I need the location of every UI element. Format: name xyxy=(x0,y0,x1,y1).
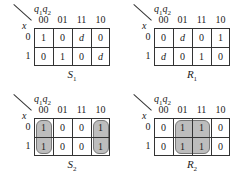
kmap-cell: 0 xyxy=(53,137,72,156)
kmap-caption: S2 xyxy=(62,158,82,173)
kmap-cell: 1 xyxy=(53,47,72,66)
kmap-cell: 0 xyxy=(211,47,230,66)
kmap-cell: d xyxy=(154,47,173,66)
row-variable-label: x xyxy=(142,110,146,121)
column-header: 00 xyxy=(34,14,53,25)
row-header: 1 xyxy=(24,50,32,61)
row-header: 0 xyxy=(24,31,32,42)
row-header: 0 xyxy=(144,121,152,132)
kmap-cell: 0 xyxy=(154,137,173,156)
row-variable-label: x xyxy=(142,20,146,31)
corner-diagonal-line xyxy=(13,94,32,111)
column-header: 11 xyxy=(192,14,211,25)
row-variable-label: x xyxy=(22,20,26,31)
column-header: 00 xyxy=(154,14,173,25)
corner-diagonal-line xyxy=(133,4,152,21)
kmap-cell: d xyxy=(91,47,110,66)
kmap-cell: 0 xyxy=(192,28,211,47)
row-header: 1 xyxy=(24,140,32,151)
kmap-cell: 1 xyxy=(34,137,53,156)
kmap-cell: 1 xyxy=(173,118,192,137)
row-variable-label: x xyxy=(22,110,26,121)
row-header: 1 xyxy=(144,50,152,61)
kmap-caption: R2 xyxy=(182,158,202,173)
kmap-grid: 0d01d010 xyxy=(154,28,230,66)
column-header: 10 xyxy=(91,104,110,115)
kmap-caption: S1 xyxy=(62,68,82,83)
kmap-cell: 0 xyxy=(211,118,230,137)
kmap-cell: 0 xyxy=(154,28,173,47)
column-header: 00 xyxy=(154,104,173,115)
kmap-s2: q1q2x000111100110011001S2 xyxy=(0,90,120,180)
kmap-cell: 1 xyxy=(34,118,53,137)
kmap-cell: 1 xyxy=(91,118,110,137)
kmap-cell: d xyxy=(173,28,192,47)
kmap-cell: 0 xyxy=(53,28,72,47)
corner-diagonal-line xyxy=(133,94,152,111)
column-header: 10 xyxy=(211,14,230,25)
kmap-cell: 0 xyxy=(72,137,91,156)
kmap-cell: 0 xyxy=(173,47,192,66)
column-header: 00 xyxy=(34,104,53,115)
row-header: 0 xyxy=(144,31,152,42)
kmap-cell: 0 xyxy=(34,47,53,66)
kmap-grid: 10011001 xyxy=(34,118,110,156)
kmap-cell: 0 xyxy=(53,118,72,137)
kmap-cell: 0 xyxy=(72,47,91,66)
kmap-cell: 1 xyxy=(192,137,211,156)
kmap-caption: R1 xyxy=(182,68,202,83)
column-header: 01 xyxy=(173,14,192,25)
kmap-cell: 1 xyxy=(91,137,110,156)
kmap-cell: 0 xyxy=(211,137,230,156)
kmap-cell: 0 xyxy=(154,118,173,137)
row-header: 1 xyxy=(144,140,152,151)
column-header: 11 xyxy=(72,14,91,25)
corner-diagonal-line xyxy=(13,4,32,21)
column-header: 10 xyxy=(211,104,230,115)
kmap-r1: q1q2x00011110010d01d010R1 xyxy=(120,0,240,90)
kmap-s1: q1q2x000111100110d0010dS1 xyxy=(0,0,120,90)
column-header: 01 xyxy=(53,14,72,25)
column-header: 11 xyxy=(192,104,211,115)
column-header: 11 xyxy=(72,104,91,115)
row-header: 0 xyxy=(24,121,32,132)
column-header: 01 xyxy=(53,104,72,115)
kmap-cell: 1 xyxy=(173,137,192,156)
kmap-grid: 10d0010d xyxy=(34,28,110,66)
kmap-grid: 01100110 xyxy=(154,118,230,156)
kmap-r2: q1q2x000111100101100110R2 xyxy=(120,90,240,180)
kmap-cell: 1 xyxy=(192,47,211,66)
column-header: 01 xyxy=(173,104,192,115)
kmap-cell: 0 xyxy=(72,118,91,137)
kmap-cell: 1 xyxy=(211,28,230,47)
kmap-cell: 1 xyxy=(192,118,211,137)
column-header: 10 xyxy=(91,14,110,25)
kmap-cell: 1 xyxy=(34,28,53,47)
kmap-cell: d xyxy=(72,28,91,47)
kmap-cell: 0 xyxy=(91,28,110,47)
